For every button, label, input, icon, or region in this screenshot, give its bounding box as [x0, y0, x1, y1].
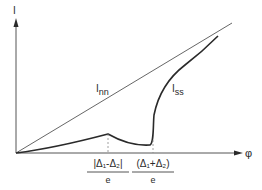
inn-label: Inn	[96, 83, 109, 97]
marker-1-denominator: e	[105, 175, 110, 185]
iss-label: Iss	[172, 83, 184, 97]
marker-2-numerator: (Δ₁+Δ₂)	[136, 158, 169, 169]
y-axis-label: I	[13, 5, 16, 16]
x-axis-arrow-icon	[234, 151, 243, 156]
marker-1-numerator: |Δ₁-Δ₂|	[93, 158, 122, 169]
iss-curve	[16, 36, 218, 153]
iv-characteristic-diagram: I φ Inn Iss |Δ₁-Δ₂| e (Δ₁+Δ₂) e	[0, 0, 262, 190]
y-axis-arrow-icon	[14, 18, 19, 27]
inn-curve	[16, 23, 232, 153]
marker-2-denominator: e	[150, 175, 155, 185]
x-axis-label: φ	[245, 147, 252, 159]
